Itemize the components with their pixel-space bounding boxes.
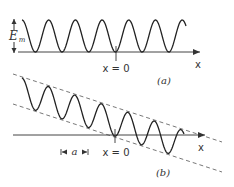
uniform-wave [22,20,186,52]
spacing-label: a [72,146,78,157]
lower-envelope-dashed [13,104,222,172]
axis-label-a: x [195,59,201,70]
origin-label-a: x = 0 [102,63,129,74]
caption-b: (b) [156,167,170,178]
wave-diagram: Em x = 0 x (a) a x = 0 x (b) [0,0,234,187]
panel-b: a x = 0 x (b) [13,74,222,178]
amplitude-label: Em [8,29,26,44]
panel-a: Em x = 0 x (a) [8,19,201,86]
upper-envelope-dashed [13,74,222,142]
decaying-envelope-wave [22,78,184,153]
axis-label-b: x [198,142,204,153]
spacing-marker: a [61,146,88,157]
origin-label-b: x = 0 [102,147,129,158]
caption-a: (a) [157,75,171,86]
